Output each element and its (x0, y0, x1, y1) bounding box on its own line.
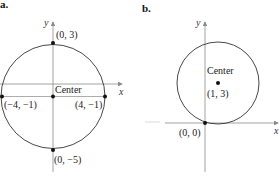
label-left: (−4, −1) (4, 99, 37, 111)
panel-b: b. y x Center (1, 3) (0, 0) (142, 2, 279, 172)
label-origin: (0, 0) (179, 127, 201, 139)
point-top (51, 41, 55, 45)
label-right: (4, −1) (75, 99, 102, 111)
x-axis-label: x (273, 125, 279, 136)
label-bottom: (0, −5) (54, 154, 81, 166)
point-left (0, 95, 4, 99)
point-right (103, 95, 107, 99)
panel-b-label: b. (142, 2, 151, 14)
figure: a. y x (0, 3) (−4, −1) (4, −1) (0, −5) C… (0, 0, 280, 179)
y-axis-label: y (195, 17, 201, 28)
label-center: Center (55, 84, 82, 95)
point-center (51, 95, 55, 99)
panel-a-label: a. (0, 0, 9, 10)
point-origin (203, 121, 207, 125)
point-bottom (51, 148, 55, 152)
label-center-coord: (1, 3) (207, 88, 229, 100)
label-center: Center (207, 65, 234, 76)
y-axis-label: y (43, 17, 49, 28)
x-axis-label: x (118, 86, 124, 97)
panel-a: a. y x (0, 3) (−4, −1) (4, −1) (0, −5) C… (0, 0, 124, 172)
point-center (216, 81, 220, 85)
label-top: (0, 3) (56, 29, 78, 41)
